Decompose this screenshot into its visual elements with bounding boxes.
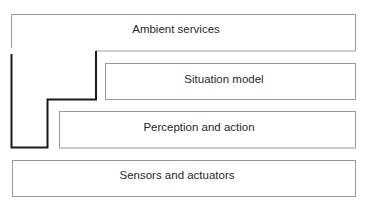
ambient-services-label: Ambient services bbox=[132, 24, 220, 36]
perception-action-label: Perception and action bbox=[143, 122, 254, 134]
situation-model-label: Situation model bbox=[184, 74, 263, 86]
ambient-services-outline-step bbox=[12, 51, 97, 148]
sensors-actuators-label: Sensors and actuators bbox=[119, 170, 234, 182]
